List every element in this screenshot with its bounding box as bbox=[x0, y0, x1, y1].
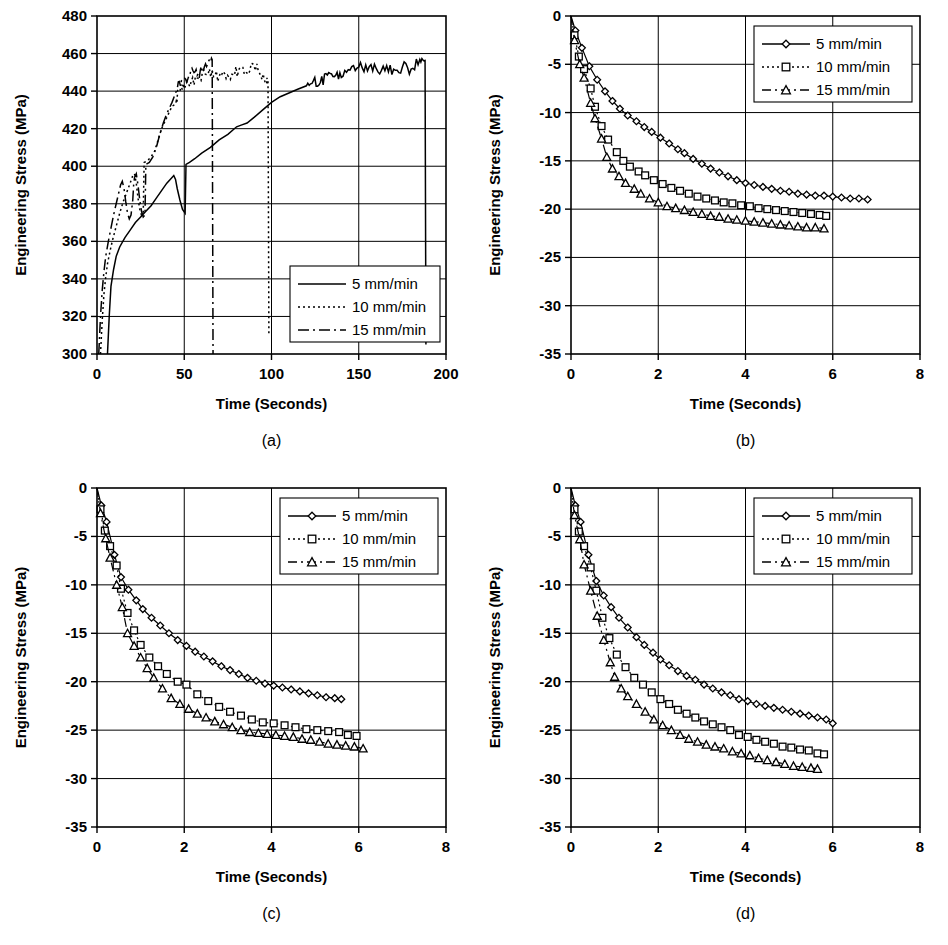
x-tick-label: 8 bbox=[442, 838, 450, 855]
y-tick-label: 440 bbox=[62, 82, 87, 99]
y-axis-title-d: Engineering Stress (MPa) bbox=[486, 567, 503, 749]
marker-square bbox=[163, 671, 170, 678]
x-tick-label: 2 bbox=[654, 838, 662, 855]
marker-diamond bbox=[218, 663, 225, 670]
marker-square bbox=[613, 651, 620, 658]
marker-diamond bbox=[709, 685, 716, 692]
marker-triangle bbox=[742, 217, 750, 224]
y-tick-label: -5 bbox=[74, 527, 87, 544]
y-tick-label: -35 bbox=[539, 818, 561, 835]
chart-svg-c: -35-30-25-20-15-10-5002468Time (Seconds)… bbox=[0, 472, 474, 945]
marker-square bbox=[823, 213, 830, 220]
marker-square bbox=[292, 724, 299, 731]
marker-diamond bbox=[594, 76, 601, 83]
x-tick-label: 0 bbox=[93, 365, 101, 382]
marker-triangle bbox=[659, 721, 667, 728]
y-tick-label: -25 bbox=[539, 248, 561, 265]
marker-diamond bbox=[797, 710, 804, 717]
y-tick-label: -5 bbox=[548, 527, 561, 544]
marker-square bbox=[325, 728, 332, 735]
marker-triangle bbox=[211, 717, 219, 724]
y-tick-label: 360 bbox=[62, 232, 87, 249]
y-tick-label: 420 bbox=[62, 120, 87, 137]
panel-caption-c: (c) bbox=[262, 905, 281, 922]
marker-square bbox=[642, 172, 649, 179]
marker-square bbox=[779, 743, 786, 750]
y-tick-label: -30 bbox=[539, 297, 561, 314]
marker-triangle bbox=[333, 741, 341, 748]
marker-diamond bbox=[579, 44, 586, 51]
x-tick-label: 8 bbox=[916, 838, 924, 855]
y-tick-label: -10 bbox=[65, 576, 87, 593]
marker-square bbox=[736, 732, 743, 739]
marker-triangle bbox=[680, 206, 688, 213]
marker-diamond bbox=[829, 720, 836, 727]
y-axis-d: -35-30-25-20-15-10-50 bbox=[539, 479, 571, 835]
marker-triangle bbox=[630, 185, 638, 192]
marker-triangle bbox=[587, 99, 595, 106]
marker-square bbox=[227, 708, 234, 715]
chart-svg-b: -35-30-25-20-15-10-5002468Time (Seconds)… bbox=[474, 0, 948, 472]
chart-svg-d: -35-30-25-20-15-10-5002468Time (Seconds)… bbox=[474, 472, 948, 945]
marker-square bbox=[259, 719, 266, 726]
marker-diamond bbox=[736, 696, 743, 703]
marker-triangle bbox=[193, 710, 201, 717]
marker-square bbox=[821, 751, 828, 758]
marker-square bbox=[606, 635, 613, 642]
marker-square bbox=[631, 674, 638, 681]
y-tick-label: -20 bbox=[539, 673, 561, 690]
marker-diamond bbox=[698, 160, 705, 167]
marker-triangle bbox=[118, 603, 126, 610]
marker-diamond bbox=[192, 648, 199, 655]
marker-triangle bbox=[307, 736, 315, 743]
marker-square bbox=[781, 208, 788, 215]
marker-triangle bbox=[632, 700, 640, 707]
chart-panel-c: -35-30-25-20-15-10-5002468Time (Seconds)… bbox=[0, 472, 474, 945]
marker-square bbox=[336, 729, 343, 736]
marker-triangle bbox=[611, 673, 619, 680]
marker-diamond bbox=[314, 692, 321, 699]
marker-diamond bbox=[683, 673, 690, 680]
y-tick-label: 300 bbox=[62, 345, 87, 362]
y-axis-title-c: Engineering Stress (MPa) bbox=[12, 567, 29, 749]
x-tick-label: 4 bbox=[741, 838, 750, 855]
legend-label-3: 15 mm/min bbox=[816, 81, 890, 98]
marker-diamond bbox=[666, 140, 673, 147]
marker-triangle bbox=[324, 740, 332, 747]
x-axis-c: 02468 bbox=[93, 827, 450, 855]
legend-label-2: 10 mm/min bbox=[352, 298, 426, 315]
y-tick-label: -25 bbox=[65, 721, 87, 738]
y-axis-a: 300320340360380400420440460480 bbox=[62, 7, 97, 362]
marker-diamond bbox=[864, 196, 871, 203]
marker-triangle bbox=[603, 153, 611, 160]
chart-svg-a: 3003203403603804004204404604800501001502… bbox=[0, 0, 474, 472]
marker-triangle bbox=[789, 762, 797, 769]
marker-diamond bbox=[803, 191, 810, 198]
marker-diamond bbox=[777, 187, 784, 194]
y-tick-label: -5 bbox=[548, 55, 561, 72]
y-axis-title-b: Engineering Stress (MPa) bbox=[486, 94, 503, 276]
marker-triangle bbox=[746, 751, 754, 758]
marker-square bbox=[701, 718, 708, 725]
y-tick-label: 400 bbox=[62, 157, 87, 174]
marker-diamond bbox=[716, 169, 723, 176]
marker-square bbox=[281, 722, 288, 729]
marker-square bbox=[635, 168, 642, 175]
legend-label-3: 15 mm/min bbox=[342, 553, 416, 570]
marker-diamond bbox=[305, 690, 312, 697]
marker-square bbox=[799, 210, 806, 217]
marker-triangle bbox=[755, 754, 763, 761]
marker-triangle bbox=[580, 74, 588, 81]
marker-square bbox=[709, 721, 716, 728]
x-tick-label: 8 bbox=[916, 365, 924, 382]
legend-label-1: 5 mm/min bbox=[816, 507, 882, 524]
legend-label-2: 10 mm/min bbox=[816, 58, 890, 75]
marker-triangle bbox=[776, 221, 784, 228]
marker-square bbox=[753, 736, 760, 743]
y-tick-label: -15 bbox=[65, 624, 87, 641]
marker-diamond bbox=[701, 681, 708, 688]
marker-square bbox=[194, 691, 201, 698]
y-tick-label: 0 bbox=[553, 7, 561, 24]
figure-panel-grid: 3003203403603804004204404604800501001502… bbox=[0, 0, 948, 945]
marker-square bbox=[137, 642, 144, 649]
